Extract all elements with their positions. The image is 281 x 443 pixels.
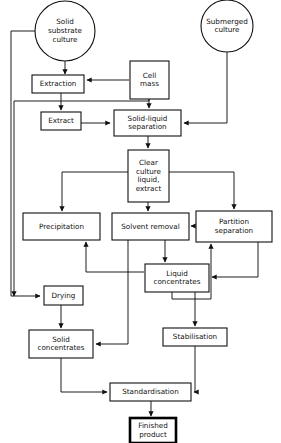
node-solid_substrate_culture[interactable]: Solidsubstrateculture — [35, 1, 95, 61]
node-standardisation[interactable]: Standardisation — [110, 383, 191, 401]
node-extract[interactable]: Extract — [41, 112, 81, 130]
node-solvent_removal[interactable]: Solvent removal — [112, 213, 189, 240]
node-partition_separation[interactable]: Partitionseparation — [196, 211, 272, 242]
node-label-solvent_removal: Solvent removal — [121, 221, 180, 230]
node-submerged_culture[interactable]: Submergedculture — [201, 0, 253, 52]
edge-partition_separation-to-liquid_concentrates — [212, 242, 258, 277]
edge-liquid_concentrates-to-precipitation — [86, 242, 144, 272]
node-finished_product[interactable]: Finishedproduct — [130, 418, 176, 443]
node-liquid_concentrates[interactable]: Liquidconcentrates — [145, 264, 209, 292]
node-label-solid_liquid_separation: Solid-liquidseparation — [128, 114, 168, 132]
node-extraction[interactable]: Extraction — [32, 75, 84, 93]
edge-clear_culture_liquid_extract-to-partition_separation — [169, 172, 234, 209]
node-label-clear_culture_liquid_extract: Clearcultureliquid,extract — [136, 158, 162, 193]
edge-submerged_culture-to-solid_liquid_separation — [184, 52, 227, 123]
edge-clear_culture_liquid_extract-to-precipitation — [62, 172, 128, 211]
node-label-partition_separation: Partitionseparation — [215, 217, 253, 235]
node-stabilisation[interactable]: Stabilisation — [163, 328, 227, 346]
node-label-extract: Extract — [48, 116, 74, 125]
edge-solid_substrate_culture-to-drying — [11, 31, 40, 296]
node-cell_mass[interactable]: Cellmass — [130, 61, 169, 99]
flowchart-canvas: SolidsubstratecultureSubmergedcultureExt… — [0, 0, 281, 443]
node-solid_concentrates[interactable]: Solidconcentrates — [29, 330, 93, 358]
node-label-stabilisation: Stabilisation — [173, 332, 217, 341]
node-drying[interactable]: Drying — [44, 286, 83, 305]
node-precipitation[interactable]: Precipitation — [23, 213, 100, 240]
node-clear_culture_liquid_extract[interactable]: Clearcultureliquid,extract — [128, 150, 169, 202]
flowchart-svg: SolidsubstratecultureSubmergedcultureExt… — [0, 0, 281, 443]
node-label-standardisation: Standardisation — [122, 387, 179, 396]
node-label-finished_product: Finishedproduct — [138, 421, 167, 439]
node-solid_liquid_separation[interactable]: Solid-liquidseparation — [114, 110, 181, 136]
edge-solvent_removal-to-solid_concentrates — [96, 240, 128, 344]
node-label-drying: Drying — [52, 290, 76, 299]
edge-stabilisation-to-standardisation — [194, 346, 195, 392]
node-label-precipitation: Precipitation — [39, 221, 84, 230]
edge-solid_concentrates-to-standardisation — [61, 358, 107, 392]
nodes-layer: SolidsubstratecultureSubmergedcultureExt… — [23, 0, 272, 443]
node-label-extraction: Extraction — [40, 79, 77, 88]
